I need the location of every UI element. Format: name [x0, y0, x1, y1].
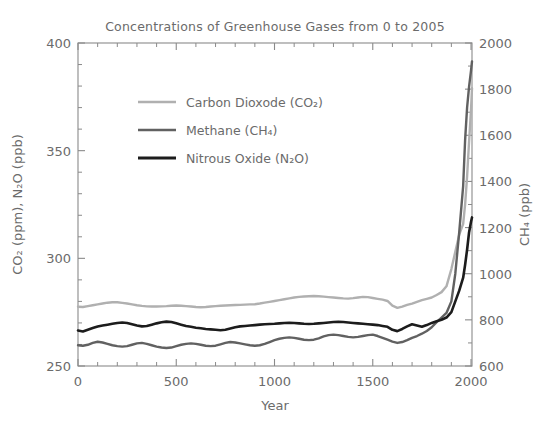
- legend-label: Nitrous Oxide (N₂O): [186, 151, 309, 166]
- y-axis-label-right: CH₄ (ppb): [517, 183, 532, 246]
- x-tick-label: 0: [74, 374, 82, 389]
- x-tick-label: 2000: [454, 374, 487, 389]
- series-line-nitrous-oxide-n-o: [78, 217, 472, 331]
- greenhouse-gas-chart: Concentrations of Greenhouse Gases from …: [0, 0, 547, 425]
- y-tick-label-right: 1400: [479, 174, 512, 189]
- y-tick-label-right: 2000: [479, 36, 512, 51]
- series-line-carbon-dioxode-co: [78, 88, 472, 308]
- y-tick-label-right: 600: [479, 359, 504, 374]
- y-tick-label-left: 300: [46, 251, 71, 266]
- y-axis-right: 600800100012001400160018002000CH₄ (ppb): [465, 36, 532, 374]
- y-tick-label-left: 350: [46, 144, 71, 159]
- y-tick-label-left: 250: [46, 359, 71, 374]
- y-tick-label-right: 1200: [479, 221, 512, 236]
- y-axis-left: 250300350400CO₂ (ppm), N₂O (ppb): [10, 36, 85, 374]
- chart-title: Concentrations of Greenhouse Gases from …: [105, 19, 445, 34]
- legend-label: Carbon Dioxode (CO₂): [186, 95, 323, 110]
- x-tick-label: 1500: [356, 374, 389, 389]
- x-axis-label: Year: [260, 398, 289, 413]
- y-tick-label-left: 400: [46, 36, 71, 51]
- y-tick-label-right: 1600: [479, 128, 512, 143]
- legend: Carbon Dioxode (CO₂)Methane (CH₄)Nitrous…: [138, 95, 323, 166]
- y-axis-label-left: CO₂ (ppm), N₂O (ppb): [10, 134, 25, 274]
- y-tick-label-right: 800: [479, 313, 504, 328]
- y-tick-label-right: 1000: [479, 267, 512, 282]
- chart-canvas: Concentrations of Greenhouse Gases from …: [0, 0, 547, 425]
- legend-label: Methane (CH₄): [186, 123, 277, 138]
- x-tick-label: 500: [164, 374, 189, 389]
- y-tick-label-right: 1800: [479, 82, 512, 97]
- plot-frame: [78, 43, 472, 366]
- x-tick-label: 1000: [258, 374, 291, 389]
